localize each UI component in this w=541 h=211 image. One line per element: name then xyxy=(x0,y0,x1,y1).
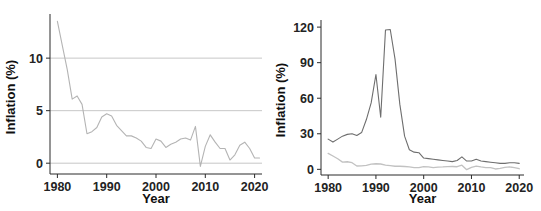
y-tick-label-120: 120 xyxy=(293,21,314,35)
y-tick-label-0: 0 xyxy=(36,157,43,171)
y-axis-title: Inflation (%) xyxy=(3,60,18,134)
x-axis-title: Year xyxy=(409,191,436,206)
y-axis-title: Inflation (%) xyxy=(273,63,288,137)
y-tick-label-0: 0 xyxy=(307,163,314,177)
x-tick-label-2020: 2020 xyxy=(505,181,533,195)
series-line-0 xyxy=(328,29,519,163)
series-line-0 xyxy=(57,21,259,166)
x-tick-label-1990: 1990 xyxy=(93,180,121,194)
y-tick-label-90: 90 xyxy=(300,56,314,70)
x-tick-label-1980: 1980 xyxy=(43,180,71,194)
y-axis: 0306090120 xyxy=(293,20,321,177)
chart-panel-right: 030609012019801990200020102020YearInflat… xyxy=(271,0,541,211)
y-axis: 0510 xyxy=(29,14,50,174)
x-tick-label-2020: 2020 xyxy=(241,180,269,194)
y-tick-label-10: 10 xyxy=(29,52,43,66)
y-gridlines xyxy=(50,58,262,163)
x-tick-label-2010: 2010 xyxy=(458,181,486,195)
chart-panel-left: 051019801990200020102020YearInflation (%… xyxy=(0,0,271,211)
x-tick-label-1990: 1990 xyxy=(362,181,390,195)
x-tick-label-1980: 1980 xyxy=(314,181,342,195)
x-tick-label-2010: 2010 xyxy=(191,180,219,194)
figure-container: 051019801990200020102020YearInflation (%… xyxy=(0,0,541,211)
y-tick-label-30: 30 xyxy=(300,127,314,141)
y-tick-label-60: 60 xyxy=(300,92,314,106)
y-tick-label-5: 5 xyxy=(36,104,43,118)
x-axis-title: Year xyxy=(142,191,169,206)
series-line-1 xyxy=(328,153,519,169)
right-chart-svg: 030609012019801990200020102020YearInflat… xyxy=(271,0,541,211)
left-chart-svg: 051019801990200020102020YearInflation (%… xyxy=(0,0,271,211)
